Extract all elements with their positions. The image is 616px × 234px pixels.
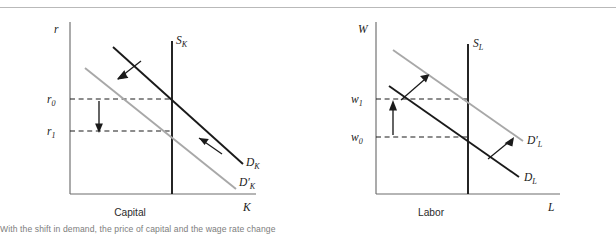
capital-tick-r0: r0 xyxy=(47,93,56,108)
labor-demand-old-label: DL xyxy=(523,171,537,186)
labor-wage-change-arrow xyxy=(389,100,397,135)
labor-tick-w1: w1 xyxy=(351,93,363,108)
capital-demand-old-label: DK xyxy=(245,156,260,171)
labor-shift-arrow-upper xyxy=(401,74,429,100)
labor-x-axis-label: L xyxy=(547,201,554,213)
capital-y-axis-label: r xyxy=(54,23,59,35)
capital-demand-new-curve xyxy=(85,68,236,189)
capital-caption: Capital xyxy=(114,207,146,218)
capital-chart: r K r0 r1 SK DK D′K Capital xyxy=(0,0,308,234)
labor-demand-new-curve xyxy=(393,50,523,141)
capital-tick-r1: r1 xyxy=(47,125,56,140)
labor-chart: W L w1 w0 SL D′L DL Labor xyxy=(308,0,616,234)
capital-price-change-arrow xyxy=(95,101,103,133)
labor-supply-label: SL xyxy=(473,37,484,52)
labor-tick-w0: w0 xyxy=(351,131,363,146)
labor-demand-old-curve xyxy=(389,86,519,177)
labor-shift-arrow-lower xyxy=(488,137,514,159)
capital-x-axis-label: K xyxy=(242,201,252,213)
labor-demand-new-label: D′L xyxy=(526,134,543,149)
capital-supply-label: SK xyxy=(176,34,188,49)
labor-y-axis-label: W xyxy=(358,23,369,35)
economics-figure: r K r0 r1 SK DK D′K Capital xyxy=(0,0,616,234)
capital-demand-new-label: D′K xyxy=(238,176,256,191)
figure-footnote: With the shift in demand, the price of c… xyxy=(0,224,616,234)
panel-labor: W L w1 w0 SL D′L DL Labor xyxy=(308,0,616,234)
capital-shift-arrow-lower xyxy=(199,138,222,154)
labor-caption: Labor xyxy=(418,207,445,218)
panel-capital: r K r0 r1 SK DK D′K Capital xyxy=(0,0,308,234)
